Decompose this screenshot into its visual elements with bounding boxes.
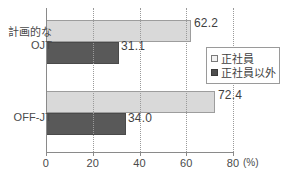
category-label-offjt: OFF-JT: [14, 111, 52, 124]
x-tick-label-40: 40: [133, 157, 146, 169]
category-label-ojt: 計画的な OJT: [8, 26, 52, 52]
bar-value-label: 62.2: [194, 16, 218, 30]
bar-seishain-offjt: [46, 91, 215, 113]
x-tick-label-60: 60: [180, 157, 193, 169]
bar-value-label: 31.1: [121, 39, 145, 53]
bar-hiseishain-ojt: [46, 42, 119, 64]
x-tick-80: [233, 152, 234, 156]
x-tick-label-20: 20: [86, 157, 99, 169]
caption-remnant: [8, 175, 276, 179]
x-tick-40: [140, 152, 141, 156]
gridline-20: [93, 8, 94, 152]
bar-chart: 62.2 31.1 72.4 34.0 0 20 40 60 80 (%) 計画…: [0, 0, 284, 181]
bar-value-label: 72.4: [218, 88, 242, 102]
x-tick-0: [46, 152, 47, 156]
x-tick-60: [186, 152, 187, 156]
x-tick-label-80: 80: [227, 157, 240, 169]
bar-seihain-ojt: [46, 20, 191, 42]
legend-swatch-light-square-icon: [211, 55, 218, 62]
x-axis-unit-label: (%): [243, 157, 259, 168]
legend-item-seishain: 正社員: [211, 51, 275, 65]
bar-hiseishain-offjt: [46, 113, 126, 135]
x-tick-label-0: 0: [43, 157, 49, 169]
gridline-60: [186, 8, 187, 152]
gridline-40: [140, 8, 141, 152]
legend: 正社員 正社員以外: [206, 47, 280, 84]
legend-item-hiseishain: 正社員以外: [211, 65, 275, 79]
x-tick-20: [93, 152, 94, 156]
legend-swatch-dark-square-icon: [211, 69, 218, 76]
legend-label: 正社員以外: [221, 64, 277, 80]
